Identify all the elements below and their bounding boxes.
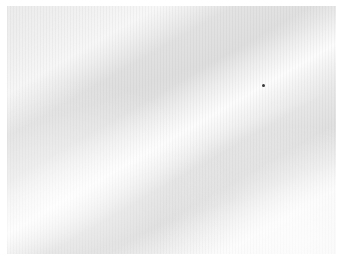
fabric-photo xyxy=(7,6,336,254)
dark-speck xyxy=(262,84,265,87)
fabric-sheen xyxy=(7,6,336,254)
